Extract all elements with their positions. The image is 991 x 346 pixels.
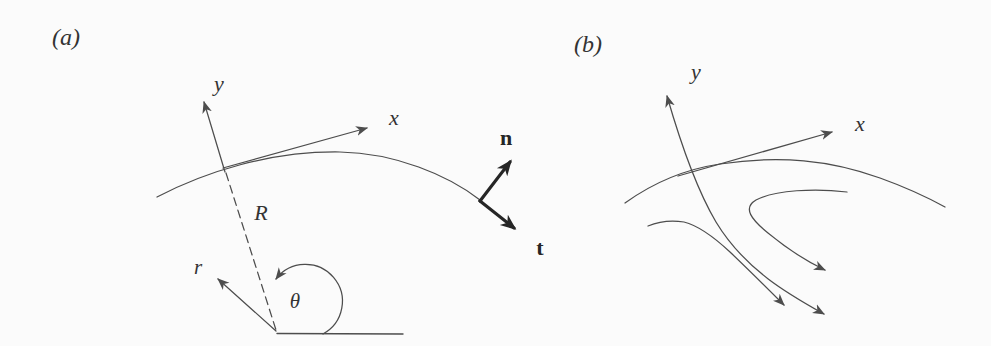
- bold-vectors-group: [480, 162, 514, 228]
- x-axis-label-b: x: [855, 113, 865, 135]
- radius-label: R: [254, 202, 267, 224]
- tangent-vector-arrow: [480, 201, 514, 228]
- diagram-svg: [0, 0, 991, 346]
- y-axis-dividing-streamline: [667, 96, 824, 314]
- x-axis-label-a: x: [389, 107, 399, 129]
- figure-canvas: (a) y x R r θ n t (b) y x: [0, 0, 991, 346]
- r-vector-arrow: [218, 279, 276, 331]
- x-axis-arrow-a: [223, 128, 367, 168]
- x-axis-arrow-b: [678, 132, 832, 176]
- tangent-vector-label: t: [536, 237, 543, 259]
- recirculating-streamline: [749, 190, 847, 270]
- panel-a-tag: (a): [52, 25, 80, 49]
- theta-label: θ: [290, 291, 300, 312]
- lower-streamline: [648, 221, 784, 305]
- normal-vector-arrow: [480, 162, 510, 201]
- surface-curve-a: [157, 152, 480, 200]
- panel-b-tag: (b): [574, 32, 602, 56]
- surface-curve-b: [625, 160, 945, 207]
- r-label: r: [194, 257, 202, 278]
- radius-of-curvature-dashed-line: [226, 173, 276, 330]
- theta-angle-arc-arrow: [276, 264, 342, 334]
- y-axis-arrow-a: [204, 102, 225, 172]
- wall-line: [277, 334, 403, 335]
- thin-strokes-group: [157, 96, 945, 334]
- y-axis-label-b: y: [691, 61, 701, 83]
- y-axis-label-a: y: [214, 73, 224, 95]
- normal-vector-label: n: [500, 127, 512, 149]
